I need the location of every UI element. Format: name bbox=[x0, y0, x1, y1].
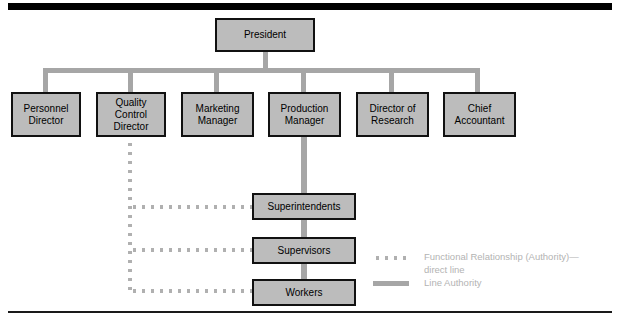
node-quality-control-director[interactable]: Quality Control Director bbox=[96, 92, 166, 137]
legend-label-functional: Functional Relationship (Authority)— dir… bbox=[424, 251, 619, 276]
node-workers-label: Workers bbox=[283, 287, 324, 299]
connector-production-to-superintendents bbox=[301, 137, 307, 195]
node-personnel-director[interactable]: Personnel Director bbox=[11, 92, 81, 137]
connector-level1-bus bbox=[43, 68, 480, 73]
node-superintendents[interactable]: Superintendents bbox=[252, 193, 356, 220]
node-personnel-director-label: Personnel Director bbox=[21, 103, 70, 127]
node-marketing-manager[interactable]: Marketing Manager bbox=[181, 92, 254, 137]
functional-branch-workers bbox=[130, 289, 253, 293]
node-quality-control-director-label: Quality Control Director bbox=[111, 97, 150, 133]
org-chart: President Personnel Director Quality Con… bbox=[0, 0, 619, 319]
top-rule bbox=[8, 3, 612, 10]
legend-swatch-functional-icon bbox=[373, 256, 409, 260]
connector-drop-production bbox=[301, 68, 306, 93]
connector-drop-marketing bbox=[214, 68, 219, 93]
node-president[interactable]: President bbox=[215, 18, 315, 52]
connector-drop-quality bbox=[128, 68, 133, 93]
functional-trunk-quality-control bbox=[128, 140, 132, 292]
node-chief-accountant[interactable]: Chief Accountant bbox=[443, 92, 516, 137]
node-production-manager[interactable]: Production Manager bbox=[268, 92, 341, 137]
bottom-rule bbox=[8, 311, 612, 313]
node-superintendents-label: Superintendents bbox=[266, 201, 343, 213]
functional-branch-supervisors bbox=[130, 248, 253, 252]
connector-drop-accountant bbox=[475, 68, 480, 93]
functional-branch-superintendents bbox=[130, 205, 253, 209]
node-director-of-research[interactable]: Director of Research bbox=[356, 92, 429, 137]
connector-drop-personnel bbox=[43, 68, 48, 93]
connector-drop-research bbox=[389, 68, 394, 93]
legend-label-line-authority: Line Authority bbox=[424, 277, 619, 290]
legend-swatch-line-authority-icon bbox=[373, 281, 409, 286]
node-workers[interactable]: Workers bbox=[252, 279, 356, 306]
node-president-label: President bbox=[242, 29, 288, 41]
node-supervisors-label: Supervisors bbox=[276, 245, 333, 257]
node-director-of-research-label: Director of Research bbox=[367, 103, 417, 127]
node-chief-accountant-label: Chief Accountant bbox=[452, 103, 506, 127]
node-marketing-manager-label: Marketing Manager bbox=[194, 103, 242, 127]
node-supervisors[interactable]: Supervisors bbox=[252, 237, 356, 264]
node-production-manager-label: Production Manager bbox=[279, 103, 331, 127]
